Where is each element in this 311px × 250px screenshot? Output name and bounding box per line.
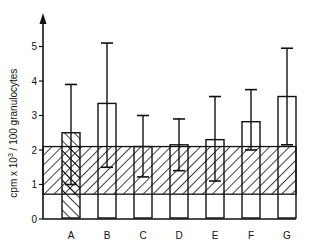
x-tick-label: C (139, 230, 146, 241)
y-tick-label: 5 (31, 41, 37, 52)
y-tick-label: 0 (31, 214, 37, 225)
x-tick-label: A (68, 230, 75, 241)
x-tick-label: D (175, 230, 182, 241)
bars: ABCDEFG (62, 43, 296, 241)
y-axis-arrow-icon (40, 13, 47, 24)
x-tick-label: B (104, 230, 111, 241)
y-tick-label: 2 (31, 145, 37, 156)
bar-G: G (278, 48, 296, 241)
y-tick-label: 1 (31, 179, 37, 190)
y-axis-label: cpm x 103 / 100 granulocytes (7, 58, 19, 208)
bar-chart: ABCDEFG 012345 (0, 0, 311, 250)
x-tick-label: G (283, 230, 291, 241)
bar-B: B (98, 43, 116, 241)
y-tick-label: 4 (31, 76, 37, 87)
x-tick-label: E (212, 230, 219, 241)
x-tick-label: F (248, 230, 254, 241)
bar-A: A (62, 84, 80, 241)
y-tick-label: 3 (31, 110, 37, 121)
